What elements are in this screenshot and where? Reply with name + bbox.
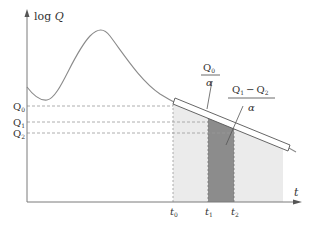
log-q-diagram: log Q t Q0 Q1 Q2 t0 t1 t2 Q0 α Q1−Q2 α [0, 0, 314, 229]
annotation-q1-minus-q2-over-alpha: Q1−Q2 α [228, 84, 275, 113]
y-axis-label: log Q [34, 10, 64, 23]
x-tick-t2: t2 [231, 206, 239, 218]
svg-text:α: α [248, 102, 255, 113]
x-axis-arrow-icon [293, 200, 302, 205]
svg-text:Q1−Q2: Q1−Q2 [232, 84, 269, 96]
y-tick-q0: Q0 [13, 101, 25, 113]
dark-shaded-region [208, 117, 234, 202]
annotation-q0-over-alpha: Q0 α [201, 62, 220, 88]
y-tick-q2: Q2 [13, 128, 25, 140]
x-axis-label: t [294, 186, 299, 199]
y-axis-arrow-icon [25, 9, 30, 17]
svg-text:Q0: Q0 [203, 62, 215, 74]
x-tick-t0: t0 [170, 206, 178, 218]
svg-text:α: α [206, 77, 213, 88]
x-tick-t1: t1 [205, 206, 213, 218]
